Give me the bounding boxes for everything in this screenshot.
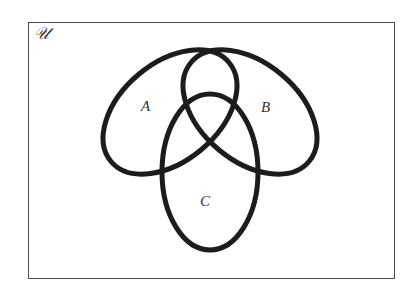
set-c-ellipse	[162, 94, 258, 250]
set-c-label: C	[200, 194, 210, 209]
venn-ellipses	[0, 0, 413, 289]
set-b-label: B	[261, 100, 270, 115]
venn-diagram-figure: 𝒰 A B C	[0, 0, 413, 289]
set-a-label: A	[141, 99, 150, 114]
